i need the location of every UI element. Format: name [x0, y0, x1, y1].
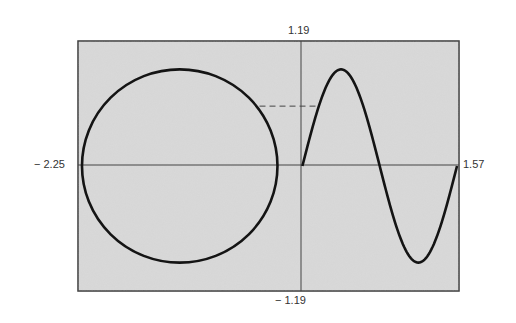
- plot-texture: [78, 41, 459, 291]
- x-max-label: 1.57: [463, 158, 484, 170]
- y-max-label: 1.19: [288, 24, 309, 36]
- chart-figure: 1.19 − 1.19 − 2.25 1.57: [0, 0, 516, 323]
- y-min-label: − 1.19: [275, 294, 306, 306]
- x-min-label: − 2.25: [34, 158, 65, 170]
- plot-area: [0, 0, 516, 323]
